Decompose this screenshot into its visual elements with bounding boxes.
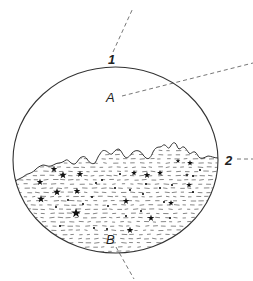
star-particle-icon xyxy=(127,227,134,233)
leader-lines xyxy=(113,8,253,279)
star-particle-icon xyxy=(185,173,189,177)
dot-particle xyxy=(169,217,171,219)
dot-particle xyxy=(145,183,147,185)
leader-line-1 xyxy=(113,8,133,52)
dot-particle xyxy=(140,210,142,212)
star-particle-icon xyxy=(144,172,151,178)
dot-particle xyxy=(106,228,108,230)
dot-particle xyxy=(119,173,121,175)
star-particle-icon xyxy=(187,160,193,166)
dot-particle xyxy=(192,191,194,193)
dot-particle xyxy=(67,199,69,201)
star-particle-icon xyxy=(71,208,81,217)
star-particle-icon xyxy=(59,171,67,178)
star-particle-icon xyxy=(51,166,58,172)
label-b: B xyxy=(106,232,115,247)
dot-particle xyxy=(101,179,103,181)
label-2: 2 xyxy=(224,153,233,168)
dot-particle xyxy=(91,196,93,198)
dot-particle xyxy=(114,187,116,189)
dot-particle xyxy=(129,189,131,191)
dot-particle xyxy=(59,225,61,227)
dot-particle xyxy=(171,184,173,186)
dot-particle xyxy=(125,215,127,217)
dot-particle xyxy=(142,193,144,195)
dot-particle xyxy=(159,187,161,189)
dot-particle xyxy=(55,206,57,208)
dot-particle xyxy=(107,205,109,207)
star-particle-icon xyxy=(53,188,61,195)
label-1: 1 xyxy=(108,52,115,67)
dot-particle xyxy=(82,203,84,205)
leader-line-a xyxy=(122,63,253,96)
star-particle-icon xyxy=(131,170,137,176)
dot-particle xyxy=(163,201,165,203)
dot-particle xyxy=(95,182,97,184)
star-particle-icon xyxy=(186,182,192,188)
label-a: A xyxy=(105,90,115,105)
dot-particle xyxy=(93,227,95,229)
dot-particle xyxy=(199,169,201,171)
vessel-outline xyxy=(13,67,218,253)
dot-particle xyxy=(192,175,194,177)
vessel-diagram: 1 A 2 B xyxy=(0,0,253,281)
